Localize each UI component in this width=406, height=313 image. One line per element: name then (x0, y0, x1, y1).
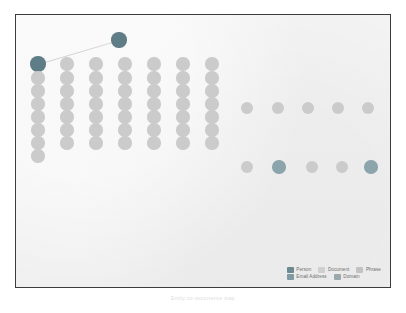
graph-node[interactable] (89, 110, 102, 123)
legend-item-person[interactable]: Person (287, 267, 312, 273)
graph-node[interactable] (31, 71, 44, 84)
graph-node[interactable] (362, 102, 374, 114)
graph-node[interactable] (118, 136, 131, 149)
graph-node[interactable] (60, 123, 73, 136)
legend-label: Document (328, 267, 350, 273)
graph-node[interactable] (147, 123, 160, 136)
graph-node[interactable] (332, 102, 344, 114)
legend-item-document[interactable]: Document (318, 267, 349, 273)
graph-node[interactable] (89, 71, 102, 84)
graph-node[interactable] (205, 84, 218, 97)
legend-item-phrase[interactable]: Phrase (356, 267, 381, 273)
legend: PersonDocumentPhraseEmail AddressDomain (284, 265, 384, 282)
graph-node[interactable] (111, 32, 126, 47)
legend-swatch-icon (287, 267, 294, 273)
graph-node[interactable] (89, 57, 102, 70)
graph-node[interactable] (176, 123, 189, 136)
graph-node[interactable] (89, 123, 102, 136)
figure-caption: Entity co-occurrence map (0, 295, 406, 302)
graph-node[interactable] (60, 110, 73, 123)
graph-node[interactable] (176, 57, 189, 70)
graph-node[interactable] (176, 84, 189, 97)
graph-node[interactable] (205, 71, 218, 84)
graph-node[interactable] (302, 102, 314, 114)
graph-node[interactable] (60, 136, 73, 149)
graph-node[interactable] (272, 102, 284, 114)
legend-swatch-icon (334, 274, 341, 280)
graph-node[interactable] (31, 97, 44, 110)
plot-canvas[interactable]: PersonDocumentPhraseEmail AddressDomain (15, 14, 391, 288)
graph-node[interactable] (118, 57, 131, 70)
graph-node[interactable] (205, 123, 218, 136)
graph-node[interactable] (336, 161, 349, 174)
graph-node[interactable] (89, 97, 102, 110)
graph-node[interactable] (118, 84, 131, 97)
graph-node[interactable] (176, 136, 189, 149)
graph-node[interactable] (147, 136, 160, 149)
legend-item-email-address[interactable]: Email Address (287, 274, 327, 280)
graph-node[interactable] (89, 136, 102, 149)
graph-node[interactable] (147, 57, 160, 70)
graph-node[interactable] (60, 71, 73, 84)
graph-node[interactable] (147, 71, 160, 84)
legend-label: Domain (343, 274, 359, 280)
legend-swatch-icon (318, 267, 325, 273)
graph-node[interactable] (205, 97, 218, 110)
legend-item-domain[interactable]: Domain (334, 274, 360, 280)
graph-node[interactable] (31, 84, 44, 97)
graph-node[interactable] (176, 71, 189, 84)
graph-node[interactable] (176, 97, 189, 110)
graph-node[interactable] (118, 71, 131, 84)
graph-node[interactable] (205, 57, 218, 70)
node-link-graph[interactable] (16, 15, 390, 287)
graph-node[interactable] (241, 102, 253, 114)
legend-label: Email Address (296, 274, 326, 280)
graph-node[interactable] (31, 149, 44, 162)
legend-swatch-icon (287, 274, 294, 280)
graph-node[interactable] (31, 136, 44, 149)
legend-row: Email AddressDomain (287, 274, 381, 280)
graph-node[interactable] (118, 97, 131, 110)
legend-label: Phrase (366, 267, 381, 273)
graph-node[interactable] (60, 97, 73, 110)
graph-node[interactable] (31, 110, 44, 123)
graph-node[interactable] (176, 110, 189, 123)
graph-node[interactable] (147, 97, 160, 110)
graph-node[interactable] (147, 84, 160, 97)
graph-node[interactable] (30, 56, 45, 71)
graph-node[interactable] (205, 136, 218, 149)
graph-node[interactable] (147, 110, 160, 123)
graph-node[interactable] (89, 84, 102, 97)
graph-node[interactable] (60, 84, 73, 97)
graph-node[interactable] (60, 57, 73, 70)
graph-node[interactable] (205, 110, 218, 123)
legend-swatch-icon (356, 267, 363, 273)
legend-label: Person (296, 267, 311, 273)
figure-container: PersonDocumentPhraseEmail AddressDomain … (0, 0, 406, 313)
graph-node[interactable] (118, 110, 131, 123)
graph-node[interactable] (31, 123, 44, 136)
legend-row: PersonDocumentPhrase (287, 267, 381, 273)
graph-node[interactable] (272, 160, 286, 174)
graph-node[interactable] (241, 161, 254, 174)
graph-node[interactable] (364, 160, 378, 174)
graph-node[interactable] (118, 123, 131, 136)
graph-edge (38, 40, 119, 65)
graph-node[interactable] (306, 161, 319, 174)
